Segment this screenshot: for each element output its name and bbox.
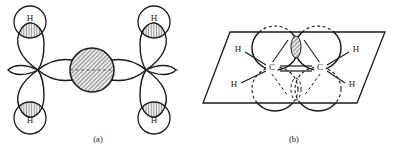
- hydrogen-label-upper-left: H: [235, 44, 242, 54]
- ethylene-bonding-figure: H H H H (a): [0, 0, 394, 157]
- hydrogen-label-bottom-right: H: [151, 115, 158, 125]
- hydrogen-label-lower-left: H: [231, 79, 238, 89]
- hydrogen-label-top-right: H: [151, 13, 158, 23]
- figure-root: H H H H (a): [0, 0, 394, 157]
- hydrogen-label-top-left: H: [27, 13, 34, 23]
- hydrogen-label-upper-right: H: [353, 44, 360, 54]
- pi-overlap-region-b: [291, 36, 301, 58]
- hydrogen-label-bottom-left: H: [27, 115, 34, 125]
- hydrogen-label-lower-right: H: [349, 79, 356, 89]
- caption-panel-a: (a): [93, 134, 103, 144]
- caption-panel-b: (b): [289, 134, 299, 144]
- carbon-label-right: C: [317, 62, 323, 72]
- carbon-label-left: C: [269, 62, 275, 72]
